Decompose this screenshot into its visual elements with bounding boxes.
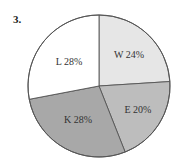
slice-label-e: E 20%: [125, 104, 152, 115]
slice-label-l: L 28%: [56, 56, 83, 67]
pie-chart: W 24%E 20%K 28%L 28%: [0, 0, 183, 159]
slice-label-k: K 28%: [64, 114, 92, 125]
slice-label-w: W 24%: [114, 49, 144, 60]
pie-slices: [28, 15, 170, 157]
